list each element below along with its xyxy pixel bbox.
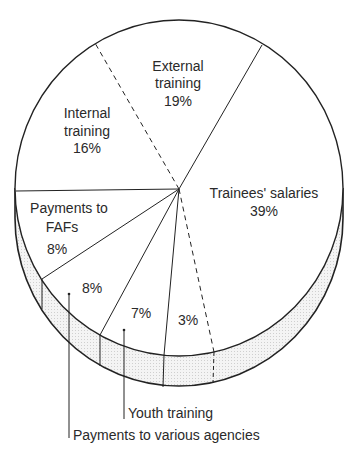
pie-chart: External training 19% Internal training … [0, 0, 355, 457]
label-internal-1: Internal [64, 105, 111, 121]
label-fafs-1: Payments to [30, 200, 108, 216]
label-external-2: training [155, 75, 201, 91]
label-fafs-pct: 8% [47, 241, 67, 257]
label-salaries-pct: 39% [250, 203, 278, 219]
callout-label-agencies: Payments to various agencies [73, 427, 260, 443]
label-other-pct: 3% [178, 312, 198, 328]
label-internal-pct: 16% [73, 140, 101, 156]
label-external-1: External [152, 58, 203, 74]
label-youth-pct: 7% [131, 305, 151, 321]
callout-label-youth: Youth training [128, 405, 213, 421]
label-salaries-1: Trainees' salaries [210, 185, 319, 201]
label-fafs-2: FAFs [46, 219, 79, 235]
label-internal-2: training [64, 123, 110, 139]
label-external-pct: 19% [164, 93, 192, 109]
label-agencies-pct: 8% [82, 280, 102, 296]
